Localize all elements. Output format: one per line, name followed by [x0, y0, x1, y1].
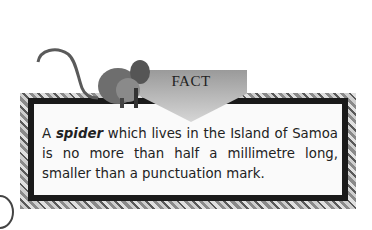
circle-decoration: [0, 195, 14, 229]
fact-text-emphasis: spider: [56, 126, 103, 141]
fact-text-prefix: A: [42, 126, 56, 141]
fact-text: A spider which lives in the Island of Sa…: [42, 124, 338, 184]
monkey-illustration: [30, 28, 160, 108]
